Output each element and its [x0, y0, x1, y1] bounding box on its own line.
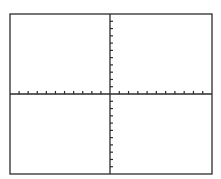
coordinate-plane [0, 0, 221, 179]
